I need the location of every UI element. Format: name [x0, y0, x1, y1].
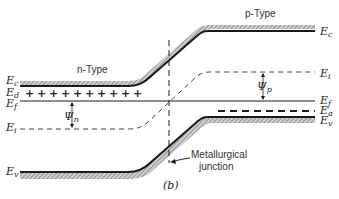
figure-caption: (b) — [163, 179, 179, 192]
donor-plus: + — [109, 87, 118, 100]
junction-label-line1: Metallurgical — [191, 149, 247, 160]
p-type-label: p-Type — [245, 8, 276, 19]
label-ev-left: Ev — [5, 165, 19, 179]
donor-plus: + — [37, 87, 46, 100]
n-type-label: n-Type — [77, 64, 108, 75]
junction-label-line2: junction — [198, 161, 233, 172]
donor-plus: + — [133, 87, 142, 100]
pn-junction-band-diagram: + + + + + + + + + + Ψn Ψp Ec Ed Ef Ei Ev… — [0, 0, 339, 199]
donor-plus: + — [61, 87, 70, 100]
donor-ions: + + + + + + + + + + — [25, 87, 142, 100]
donor-plus: + — [121, 87, 130, 100]
conduction-band-ec — [20, 25, 315, 86]
label-ei-right: Ei — [319, 67, 331, 81]
donor-plus: + — [97, 87, 106, 100]
label-ec-right: Ec — [319, 25, 333, 39]
psi-n-label: Ψn — [64, 110, 79, 124]
donor-plus: + — [73, 87, 82, 100]
donor-plus: + — [49, 87, 58, 100]
arrowhead-icon — [170, 159, 176, 164]
valence-band-ev — [20, 117, 315, 179]
donor-plus: + — [85, 87, 94, 100]
donor-plus: + — [25, 87, 34, 100]
psi-p-label: Ψp — [257, 80, 272, 94]
label-ei-left: Ei — [5, 121, 17, 135]
